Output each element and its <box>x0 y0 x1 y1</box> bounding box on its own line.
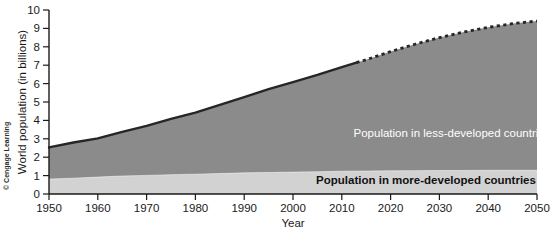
y-tick-label: 8 <box>34 41 40 53</box>
chart-canvas: 012345678910 195019601970198019902000201… <box>0 0 555 239</box>
y-axis-title: World population (in billions) <box>16 30 28 174</box>
series-label-more-developed: Population in more-developed countries <box>316 174 536 186</box>
y-tick-label: 6 <box>34 78 40 90</box>
x-tick-label: 1960 <box>85 202 111 214</box>
x-tick-label: 2050 <box>524 202 550 214</box>
y-tick-label: 2 <box>34 151 40 163</box>
y-tick-label: 10 <box>27 4 40 16</box>
x-tick-label: 2030 <box>427 202 453 214</box>
y-tick-label: 3 <box>34 133 40 145</box>
x-axis-title: Year <box>281 217 304 229</box>
y-tick-label: 5 <box>34 96 40 108</box>
x-axis-ticks: 1950196019701980199020002010202020302040… <box>36 194 550 214</box>
x-tick-label: 2000 <box>280 202 306 214</box>
series-label-less-developed: Population in less-developed countries <box>354 127 551 139</box>
y-tick-label: 0 <box>34 188 40 200</box>
y-axis-ticks: 012345678910 <box>27 4 49 200</box>
x-tick-label: 2020 <box>378 202 404 214</box>
x-tick-label: 2040 <box>475 202 501 214</box>
y-tick-label: 1 <box>34 170 40 182</box>
x-tick-label: 1950 <box>36 202 62 214</box>
x-tick-label: 1970 <box>134 202 160 214</box>
x-tick-label: 2010 <box>329 202 355 214</box>
y-tick-label: 7 <box>34 59 40 71</box>
population-chart-figure: 012345678910 195019601970198019902000201… <box>0 0 555 239</box>
y-tick-label: 4 <box>34 114 41 126</box>
y-tick-label: 9 <box>34 22 40 34</box>
x-tick-label: 1980 <box>183 202 209 214</box>
copyright-credit: © Cengage Learning <box>3 122 11 190</box>
x-tick-label: 1990 <box>231 202 257 214</box>
